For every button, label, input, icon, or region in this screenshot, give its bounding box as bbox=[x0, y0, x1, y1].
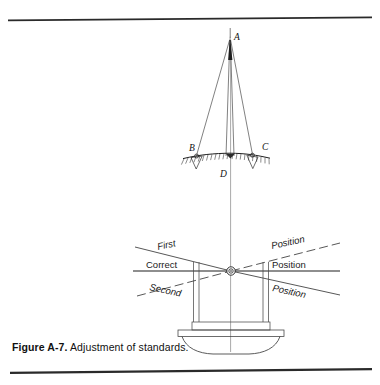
figure-container: A B C D bbox=[0, 0, 380, 385]
figure-caption-text: Adjustment of standards. bbox=[70, 341, 189, 353]
base-plate bbox=[178, 322, 284, 337]
label-point-a: A bbox=[233, 32, 240, 42]
label-point-b: B bbox=[189, 143, 195, 153]
figure-caption: Figure A-7. Adjustment of standards. bbox=[12, 341, 189, 354]
left-line-labels: First Correct Second bbox=[146, 237, 183, 299]
pivot-point bbox=[227, 267, 235, 275]
bottom-rule bbox=[10, 368, 372, 374]
label-correct: Correct bbox=[146, 259, 178, 270]
sight-lines bbox=[197, 40, 253, 156]
apex-marker bbox=[228, 28, 232, 60]
label-first: First bbox=[156, 237, 177, 252]
label-second: Second bbox=[149, 281, 184, 299]
right-line-labels: Position Position Position bbox=[270, 233, 307, 300]
label-position-correct: Position bbox=[272, 259, 306, 270]
top-rule bbox=[8, 17, 372, 22]
pedestal-foot bbox=[182, 337, 280, 355]
label-point-c: C bbox=[262, 142, 269, 152]
instrument-base bbox=[178, 262, 284, 354]
figure-caption-label: Figure A-7. bbox=[12, 341, 68, 353]
sight-line-a-to-c bbox=[231, 40, 253, 155]
label-point-d: D bbox=[219, 169, 227, 179]
ground-surface bbox=[181, 153, 270, 169]
label-position-second: Position bbox=[272, 282, 307, 300]
page-rules bbox=[8, 17, 372, 375]
label-position-first: Position bbox=[270, 233, 305, 251]
adjustment-of-standards-diagram: A B C D bbox=[0, 0, 380, 385]
sight-line-a-to-b bbox=[197, 40, 230, 156]
